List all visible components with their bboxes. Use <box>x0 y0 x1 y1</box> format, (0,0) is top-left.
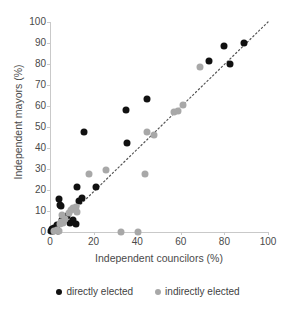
plot-area: 0102030405060708090100 020406080100 <box>50 22 268 232</box>
data-point-direct <box>206 57 213 64</box>
y-tick-mark <box>47 106 50 107</box>
scatter-chart-figure: Independent mayors (%) Independent counc… <box>0 0 296 312</box>
data-point-indirect <box>135 229 142 236</box>
data-point-indirect <box>141 171 148 178</box>
legend-item[interactable]: directly elected <box>56 286 133 297</box>
data-point-direct <box>226 61 233 68</box>
x-tick-mark <box>181 232 182 235</box>
y-tick-mark <box>47 190 50 191</box>
y-tick-mark <box>47 22 50 23</box>
data-point-direct <box>92 183 99 190</box>
x-tick-label: 0 <box>47 237 53 247</box>
data-point-indirect <box>150 132 157 139</box>
data-point-direct <box>74 183 81 190</box>
y-tick-label: 20 <box>35 185 46 195</box>
x-tick-label: 100 <box>260 237 277 247</box>
data-point-indirect <box>117 229 124 236</box>
y-tick-mark <box>47 85 50 86</box>
x-tick-mark <box>268 232 269 235</box>
y-tick-mark <box>47 43 50 44</box>
x-tick-mark <box>94 232 95 235</box>
x-axis-title: Independent councilors (%) <box>50 252 268 264</box>
legend-marker-icon <box>56 289 62 295</box>
x-tick-label: 40 <box>132 237 143 247</box>
data-point-direct <box>123 107 130 114</box>
data-point-indirect <box>86 171 93 178</box>
y-tick-mark <box>47 148 50 149</box>
y-tick-label: 90 <box>35 38 46 48</box>
data-point-indirect <box>102 167 109 174</box>
data-point-indirect <box>174 108 181 115</box>
x-axis-line <box>50 232 269 233</box>
x-tick-label: 60 <box>175 237 186 247</box>
data-point-direct <box>80 129 87 136</box>
y-tick-label: 40 <box>35 143 46 153</box>
data-point-direct <box>57 202 64 209</box>
data-point-direct <box>124 139 131 146</box>
x-tick-mark <box>224 232 225 235</box>
data-point-indirect <box>62 216 69 223</box>
y-tick-mark <box>47 211 50 212</box>
y-tick-label: 10 <box>35 206 46 216</box>
y-tick-label: 50 <box>35 122 46 132</box>
y-axis-title: Independent mayors (%) <box>12 42 24 202</box>
data-point-direct <box>144 95 151 102</box>
legend-label: directly elected <box>66 286 133 297</box>
data-point-indirect <box>179 101 186 108</box>
data-point-direct <box>73 220 80 227</box>
x-tick-label: 20 <box>88 237 99 247</box>
x-tick-label: 80 <box>219 237 230 247</box>
data-point-indirect <box>74 209 81 216</box>
data-point-direct <box>221 43 228 50</box>
data-point-direct <box>241 40 248 47</box>
data-point-indirect <box>197 64 204 71</box>
legend-item[interactable]: indirectly elected <box>155 286 239 297</box>
y-tick-label: 80 <box>35 59 46 69</box>
chart-legend: directly electedindirectly elected <box>0 286 296 297</box>
legend-label: indirectly elected <box>165 286 239 297</box>
y-tick-label: 70 <box>35 80 46 90</box>
y-tick-label: 30 <box>35 164 46 174</box>
y-tick-mark <box>47 169 50 170</box>
y-tick-label: 100 <box>29 17 46 27</box>
data-point-direct <box>78 195 85 202</box>
data-point-indirect <box>55 227 62 234</box>
y-tick-label: 60 <box>35 101 46 111</box>
y-tick-label: 0 <box>40 227 46 237</box>
y-tick-mark <box>47 127 50 128</box>
legend-marker-icon <box>155 289 161 295</box>
y-tick-mark <box>47 64 50 65</box>
